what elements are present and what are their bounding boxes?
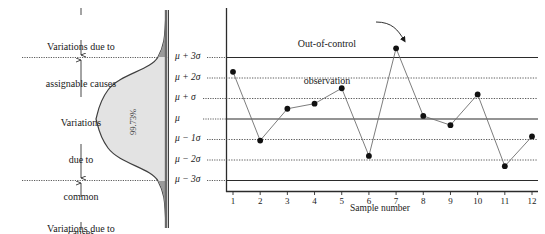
sigma-label-2: μ + 2σ [175,72,200,84]
assignable-top-line1: Variations due to [6,41,156,53]
x-tick-label-12: 12 [524,196,540,207]
ooc-line2: observation [272,75,382,87]
assignable-causes-note-bottom: Variations due to assignable causes [6,199,156,234]
sigma-label-0: μ [175,113,180,125]
assignable-bottom-line1: Variations due to [6,223,156,234]
data-point-sample-10[interactable] [475,92,481,98]
x-tick-label-11: 11 [497,196,513,207]
out-of-control-annotation: Out-of-control observation [272,14,382,112]
common-line1: Variations [26,117,136,129]
data-point-sample-12[interactable] [529,134,535,140]
sigma-label-3: μ + 3σ [175,51,200,63]
data-point-sample-2[interactable] [257,138,263,144]
sigma-label-minus2: μ − 2σ [175,154,200,166]
data-point-sample-7[interactable] [393,45,399,51]
data-point-sample-8[interactable] [420,113,426,119]
sigma-label-minus3: μ − 3σ [175,174,200,186]
sigma-label-minus1: μ − 1σ [175,133,200,145]
x-tick-label-1: 1 [225,196,241,207]
x-tick-label-3: 3 [279,196,295,207]
x-axis-title: Sample number [320,203,440,215]
data-point-sample-9[interactable] [448,122,454,128]
sigma-label-1: μ + σ [175,92,196,104]
data-point-sample-1[interactable] [230,69,236,75]
common-line2: due to [26,154,136,166]
data-point-sample-6[interactable] [366,153,372,159]
x-tick-label-9: 9 [442,196,458,207]
spc-control-chart-figure: Variations due to assignable causes Vari… [0,0,545,234]
sigma-connector-dashes [203,58,226,181]
data-point-sample-11[interactable] [502,163,508,169]
x-tick-label-2: 2 [252,196,268,207]
ooc-line1: Out-of-control [272,38,382,50]
x-tick-label-10: 10 [470,196,486,207]
assignable-top-line2: assignable causes [6,78,156,90]
coverage-percent-label: 99.73% [128,109,138,135]
